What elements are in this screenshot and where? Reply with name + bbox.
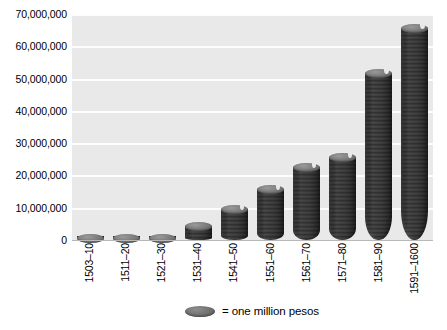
x-axis-tick-label: 1551–60: [265, 243, 276, 282]
bar-coin-stack: [329, 153, 356, 240]
bar-coin-stack: [185, 222, 212, 240]
x-axis-tick-label: 1531–40: [192, 243, 203, 282]
treasure-imports-bar-chart: 010,000,00020,000,00030,000,00040,000,00…: [0, 0, 447, 330]
y-axis: 010,000,00020,000,00030,000,00040,000,00…: [0, 0, 70, 250]
coin-top-ellipse: [293, 163, 320, 172]
y-axis-tick-label: 50,000,000: [15, 74, 67, 84]
coin-stack-notch: [384, 69, 388, 74]
coin-stack-notch: [420, 24, 424, 29]
coin-top-ellipse: [329, 153, 356, 162]
coin-stack-body: [257, 189, 284, 240]
legend-label: = one million pesos: [222, 305, 319, 317]
coin-stack-body: [329, 157, 356, 240]
coin-stack-body: [365, 73, 392, 240]
legend: = one million pesos: [185, 305, 319, 317]
y-axis-tick-label: 30,000,000: [15, 138, 67, 148]
gridline: [72, 14, 433, 16]
bar-coin-stack: [257, 185, 284, 240]
x-axis-tick-label: 1521–30: [156, 243, 167, 282]
plot-area: [72, 14, 433, 240]
y-axis-tick-label: 60,000,000: [15, 41, 67, 51]
coin-stack-notch: [240, 205, 244, 210]
coin-top-ellipse: [113, 234, 140, 243]
coin-disc-icon: [185, 306, 215, 317]
bar-coin-stack: [293, 163, 320, 240]
gridline: [72, 46, 433, 48]
coin-top-ellipse: [77, 234, 104, 243]
y-axis-tick-label: 20,000,000: [15, 170, 67, 180]
coin-top-ellipse: [149, 234, 176, 243]
x-axis-tick-label: 1511–20: [120, 243, 131, 282]
y-axis-tick-label: 10,000,000: [15, 203, 67, 213]
x-axis-tick-label: 1581–90: [373, 243, 384, 282]
y-axis-tick-label: 40,000,000: [15, 106, 67, 116]
y-axis-tick-label: 70,000,000: [15, 9, 67, 19]
x-axis: 1503–101511–201521–301531–401541–501551–…: [72, 243, 433, 303]
x-axis-tick-label: 1561–70: [301, 243, 312, 282]
bar-coin-stack: [221, 205, 248, 241]
x-axis-tick-label: 1591–1600: [409, 243, 420, 294]
x-axis-tick-label: 1571–80: [337, 243, 348, 282]
bar-coin-stack: [365, 69, 392, 240]
coin-stack-body: [293, 167, 320, 240]
x-axis-tick-label: 1541–50: [228, 243, 239, 282]
bar-coin-stack: [401, 24, 428, 240]
coin-stack-body: [401, 28, 428, 240]
x-axis-tick-label: 1503–10: [84, 243, 95, 282]
y-axis-tick-label: 0: [61, 235, 67, 245]
x-axis-baseline: [72, 240, 433, 241]
